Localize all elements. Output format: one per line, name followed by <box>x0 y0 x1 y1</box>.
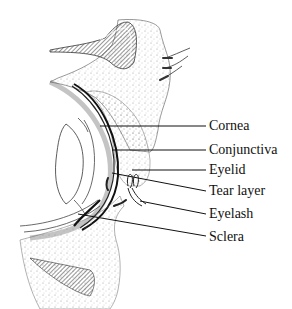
label-eyelid: Eyelid <box>209 162 246 178</box>
iris <box>82 120 95 204</box>
label-eyelash: Eyelash <box>209 206 253 222</box>
label-cornea: Cornea <box>209 118 249 134</box>
lower-face-tissue <box>20 196 124 309</box>
lens <box>55 124 83 204</box>
label-tear-layer: Tear layer <box>209 183 265 199</box>
label-conjunctiva: Conjunctiva <box>209 142 277 158</box>
label-sclera: Sclera <box>209 229 244 245</box>
leader-eyelash <box>140 201 206 214</box>
